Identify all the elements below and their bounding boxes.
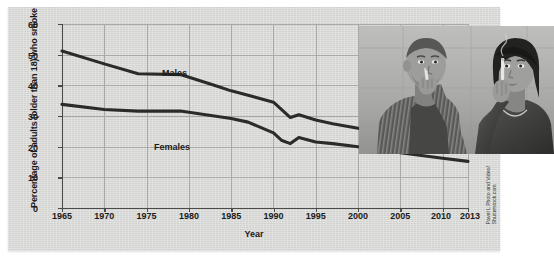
x-tick-label-1980: 1980 bbox=[169, 211, 209, 221]
x-tick-label-2005: 2005 bbox=[380, 211, 420, 221]
x-tick-label-1970: 1970 bbox=[84, 211, 124, 221]
photo-credit: Pavel L Photo and Video/ Shutterstock.co… bbox=[485, 138, 498, 224]
y-tick-label-60: 60 bbox=[8, 20, 38, 30]
x-tick-label-2000: 2000 bbox=[338, 211, 378, 221]
series-label-males: Males bbox=[162, 68, 187, 78]
plot-area: Males Females bbox=[62, 24, 468, 208]
y-tick-label-10: 10 bbox=[8, 173, 38, 183]
y-tick-label-20: 20 bbox=[8, 143, 38, 153]
x-tick-label-1985: 1985 bbox=[211, 211, 251, 221]
series-label-females: Females bbox=[154, 142, 190, 152]
x-tick-label-1975: 1975 bbox=[127, 211, 167, 221]
x-tick-label-1965: 1965 bbox=[42, 211, 82, 221]
y-tick-label-0: 0 bbox=[8, 204, 38, 214]
chart-panel: Percentage of adults (older than 18) who… bbox=[8, 7, 500, 251]
y-tick-label-30: 30 bbox=[8, 112, 38, 122]
x-tick-label-1995: 1995 bbox=[296, 211, 336, 221]
photo-smokers bbox=[359, 26, 554, 154]
y-tick-label-40: 40 bbox=[8, 81, 38, 91]
x-axis-title: Year bbox=[8, 229, 500, 239]
y-tick-label-50: 50 bbox=[8, 51, 38, 61]
photo-image bbox=[359, 26, 554, 154]
x-tick-label-1990: 1990 bbox=[254, 211, 294, 221]
